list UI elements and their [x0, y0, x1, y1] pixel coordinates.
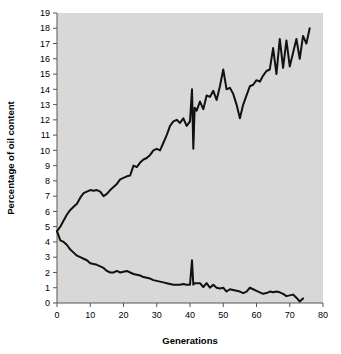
y-tick-label: 11 — [41, 130, 50, 140]
y-tick-label: 17 — [40, 39, 50, 49]
y-tick-label: 5 — [45, 222, 50, 232]
x-tick-label: 40 — [185, 310, 195, 320]
x-tick-label: 20 — [118, 310, 128, 320]
y-tick-label: 6 — [45, 207, 50, 217]
y-tick-label: 13 — [40, 100, 50, 110]
y-tick-label: 3 — [45, 252, 50, 262]
y-tick-label: 4 — [45, 237, 50, 247]
oil-content-chart: 012345678910111213141516171819 010203040… — [0, 0, 341, 354]
chart-svg: 012345678910111213141516171819 010203040… — [0, 0, 341, 354]
y-tick-label: 12 — [40, 115, 50, 125]
y-tick-label: 1 — [45, 283, 50, 293]
x-tick-label: 30 — [152, 310, 162, 320]
y-tick-label: 0 — [45, 298, 50, 308]
x-tick-label: 80 — [318, 310, 328, 320]
y-axis-title: Percentage of oil content — [5, 100, 16, 214]
y-tick-label: 10 — [40, 146, 50, 156]
y-tick-label: 14 — [40, 85, 50, 95]
y-tick-label: 15 — [40, 69, 50, 79]
x-axis-title: Generations — [162, 335, 217, 346]
x-tick-label: 0 — [54, 310, 59, 320]
x-tick-label: 10 — [85, 310, 95, 320]
y-tick-label: 18 — [40, 23, 50, 33]
x-tick-label: 70 — [285, 310, 295, 320]
x-tick-label: 50 — [218, 310, 228, 320]
y-tick-label: 7 — [45, 191, 50, 201]
plot-area-background — [57, 13, 323, 303]
y-tick-label: 8 — [45, 176, 50, 186]
y-tick-label: 19 — [40, 8, 50, 18]
x-tick-label: 60 — [251, 310, 261, 320]
y-tick-label: 2 — [45, 268, 50, 278]
y-tick-label: 9 — [45, 161, 50, 171]
y-tick-label: 16 — [40, 54, 50, 64]
